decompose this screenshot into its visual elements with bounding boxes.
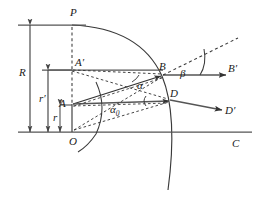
label-measure-R: R — [19, 67, 26, 78]
beta-angle-arc — [200, 49, 205, 75]
ray-A-to-B — [73, 76, 161, 104]
label-point-A: A — [59, 98, 66, 109]
alpha-zero-angle-arc — [144, 96, 146, 106]
label-measure-r-prime: r′ — [39, 93, 46, 104]
label-point-B-prime: B′ — [228, 63, 237, 74]
label-point-A-prime: A′ — [75, 57, 84, 68]
label-point-P: P — [70, 7, 77, 18]
dashed-ray-extension-upper — [163, 38, 238, 75]
label-angle-alpha: α — [137, 80, 143, 91]
label-point-D: D — [170, 88, 178, 99]
ray-D-to-Dprime — [170, 100, 222, 110]
label-point-D-prime: D′ — [225, 105, 235, 116]
dashed-Aprime-to-D — [72, 71, 168, 99]
label-measure-r: r — [53, 112, 57, 123]
arc-centered-at-A — [78, 82, 102, 152]
dashed-O-to-D — [74, 102, 169, 130]
alpha-subscript: 0 — [116, 109, 120, 118]
label-angle-alpha-zero: α0 — [110, 104, 120, 118]
ray-diagram-figure: P A′ A O B B′ D D′ C R r′ r α α0 β — [0, 0, 272, 210]
label-point-O: O — [69, 136, 77, 147]
label-point-B: B — [159, 61, 166, 72]
label-angle-beta: β — [180, 68, 185, 79]
label-point-C: C — [232, 138, 239, 149]
spherical-surface-arc — [72, 25, 172, 190]
